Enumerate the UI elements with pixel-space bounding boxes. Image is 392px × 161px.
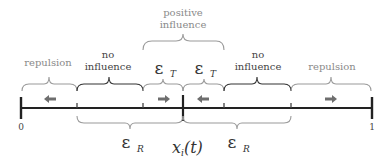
no-influence-right-line2: influence [235, 61, 282, 72]
arrow-right-icon [158, 95, 170, 103]
arrow-right-icon [325, 95, 337, 103]
epsilon-r-left-symbol: ε [122, 132, 131, 152]
axis-start-label: 0 [18, 122, 24, 132]
repulsion-right-brace [291, 77, 371, 91]
arrow-left-icon [197, 95, 209, 103]
epsilon-r-left-brace [77, 116, 183, 129]
epsilon-t-right-sub: T [210, 69, 217, 79]
repulsion-right-label: repulsion [308, 61, 356, 72]
epsilon-r-right-symbol: ε [228, 132, 237, 152]
opinion-dynamics-diagram: positive influence repulsion no influenc… [0, 0, 392, 161]
epsilon-r-left-sub: R [136, 144, 144, 154]
positive-label-line2: influence [160, 19, 207, 30]
repulsion-left-label: repulsion [24, 57, 72, 68]
positive-influence-brace [143, 34, 224, 50]
no-influence-left-brace [77, 77, 143, 91]
epsilon-t-left-brace [143, 79, 183, 91]
no-influence-right-line1: no [252, 49, 264, 60]
epsilon-r-right-brace [183, 116, 291, 129]
center-label: xi(t) [172, 138, 203, 158]
axis-end-label: 1 [369, 122, 375, 132]
epsilon-r-right-sub: R [242, 144, 250, 154]
no-influence-left-line1: no [102, 49, 114, 60]
positive-label-line1: positive [163, 7, 203, 18]
epsilon-t-left-sub: T [170, 69, 177, 79]
epsilon-t-left-symbol: ε [155, 58, 164, 78]
repulsion-left-brace [22, 77, 77, 91]
no-influence-right-brace [224, 77, 291, 91]
no-influence-left-line2: influence [85, 61, 132, 72]
arrow-left-icon [44, 95, 56, 103]
epsilon-t-right-symbol: ε [195, 58, 204, 78]
epsilon-t-right-brace [183, 79, 224, 91]
